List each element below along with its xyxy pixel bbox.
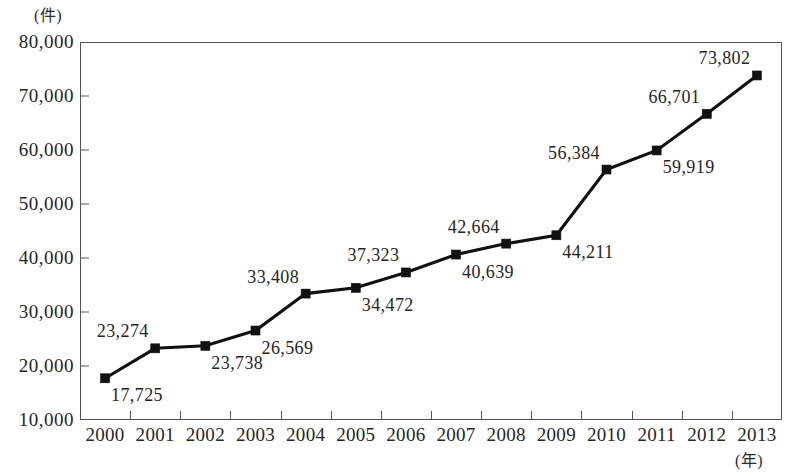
x-axis-tick-mark: [331, 411, 332, 420]
x-axis-tick-mark: [531, 411, 532, 420]
x-axis-tick-mark: [682, 411, 683, 420]
y-axis-tick-label: 40,000: [19, 247, 74, 269]
data-value-label: 56,384: [548, 143, 600, 164]
data-value-label: 59,919: [663, 157, 715, 178]
x-axis-tick-label: 2005: [336, 424, 375, 446]
x-axis-tick-label: 2001: [136, 424, 175, 446]
y-axis-unit-label: (件): [34, 2, 62, 26]
x-axis-tick-label: 2006: [386, 424, 425, 446]
data-value-label: 73,802: [699, 48, 751, 69]
x-axis-tick-label: 2002: [186, 424, 225, 446]
y-axis-tick-label: 50,000: [19, 193, 74, 215]
data-value-label: 34,472: [362, 295, 414, 316]
x-axis-tick-label: 2008: [487, 424, 526, 446]
x-axis-tick-label: 2012: [687, 424, 726, 446]
x-axis-tick-mark: [381, 411, 382, 420]
x-axis-tick-label: 2007: [436, 424, 475, 446]
x-axis-tick-label: 2010: [587, 424, 626, 446]
x-axis-tick-mark: [632, 411, 633, 420]
x-axis-tick-mark: [481, 411, 482, 420]
data-value-label: 37,323: [348, 245, 400, 266]
x-axis-tick-mark: [431, 411, 432, 420]
y-axis-tick-label: 80,000: [19, 31, 74, 53]
x-axis-tick-label: 2011: [637, 424, 676, 446]
x-axis-tick-mark: [180, 411, 181, 420]
x-axis-tick-label: 2003: [236, 424, 275, 446]
line-chart: (件) (年) 80,00070,00060,00050,00040,00030…: [0, 0, 792, 475]
data-value-label: 26,569: [262, 338, 314, 359]
x-axis-tick-mark: [732, 411, 733, 420]
x-axis-tick-mark: [581, 411, 582, 420]
data-value-label: 23,274: [97, 321, 149, 342]
y-axis-tick-label: 70,000: [19, 85, 74, 107]
x-axis-tick-mark: [130, 411, 131, 420]
data-value-label: 44,211: [562, 242, 613, 263]
x-axis-unit-label: (年): [735, 447, 763, 471]
data-value-label: 17,725: [111, 385, 163, 406]
x-axis-tick-label: 2013: [737, 424, 776, 446]
data-value-label: 66,701: [648, 87, 700, 108]
y-axis-tick-label: 20,000: [19, 355, 74, 377]
x-axis-tick-mark: [230, 411, 231, 420]
x-axis-tick-mark: [281, 411, 282, 420]
y-axis-tick-label: 10,000: [19, 409, 74, 431]
data-value-label: 40,639: [462, 262, 514, 283]
y-axis-tick-label: 30,000: [19, 301, 74, 323]
data-value-label: 33,408: [247, 267, 299, 288]
data-value-label: 23,738: [211, 353, 263, 374]
x-axis-tick-label: 2004: [286, 424, 325, 446]
y-axis-tick-label: 60,000: [19, 139, 74, 161]
x-axis-tick-label: 2009: [537, 424, 576, 446]
data-value-label: 42,664: [448, 217, 500, 238]
x-axis-tick-label: 2000: [85, 424, 124, 446]
